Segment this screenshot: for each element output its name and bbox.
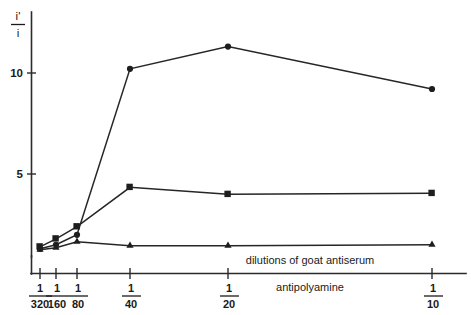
x-tick-denominator-1-160: 160 [48,298,66,310]
chart-figure: i' i 10 5 1 320 1 160 [0,0,471,315]
line-chart-svg: i' i 10 5 1 320 1 160 [0,0,471,315]
y-tick-label-10: 10 [10,67,23,79]
series-square [36,184,434,250]
x-axis-title: antipolyamine [276,281,344,293]
y-axis-label-numerator: i' [16,10,21,22]
data-point-square [73,223,79,229]
series-triangle-line [40,242,432,250]
x-tick-denominator-1-20: 20 [223,298,235,310]
x-tick-numerator-1-320: 1 [37,282,43,294]
data-point-circle [74,232,80,238]
data-point-circle [127,66,133,72]
data-point-square [428,190,434,196]
series-triangle [36,238,435,252]
x-tick-numerator-1-40: 1 [128,282,134,294]
series-circle-line [40,47,432,249]
y-tick-label-5: 5 [17,168,24,180]
data-point-triangle [224,242,231,248]
x-tick-denominator-1-40: 40 [125,298,137,310]
y-axis-label: i' i [11,10,25,39]
x-tick-denominator-1-320: 320 [31,298,49,310]
annotation-dilutions-of-goat-antiserum: dilutions of goat antiserum [246,254,374,266]
y-axis-label-denominator: i [17,27,20,39]
data-point-square [52,235,58,241]
series-circle [37,44,435,252]
x-tick-denominator-1-10: 10 [427,298,439,310]
data-point-triangle [428,241,435,247]
series-square-line [40,187,432,247]
x-tick-denominator-1-80: 80 [72,298,84,310]
data-point-square [224,191,230,197]
x-tick-numerator-1-10: 1 [430,282,436,294]
x-tick-numerator-1-80: 1 [75,282,81,294]
data-point-triangle [73,238,80,244]
x-tick-numerator-1-20: 1 [226,282,232,294]
data-point-square [126,184,132,190]
data-point-triangle [126,242,133,248]
data-point-circle [225,44,231,50]
data-point-circle [429,86,435,92]
x-tick-numerator-1-160: 1 [54,282,60,294]
